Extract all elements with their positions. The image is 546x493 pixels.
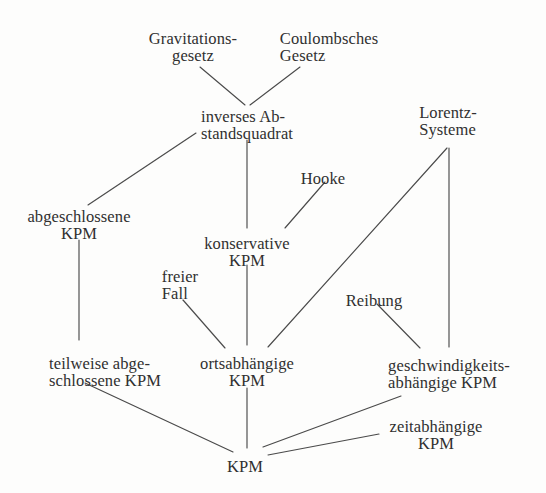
node-reibung: Reibung bbox=[346, 292, 403, 309]
node-label-line: Gravitations- bbox=[149, 30, 237, 47]
edge-inverses-abgeschlossene bbox=[88, 133, 196, 205]
concept-hierarchy-diagram: Gravitations-gesetzCoulombschesGesetzinv… bbox=[0, 0, 546, 493]
node-label-line: KPM bbox=[227, 458, 263, 475]
edge-zeitabhaengige-kpm bbox=[268, 434, 379, 455]
node-hooke: Hooke bbox=[301, 170, 346, 187]
node-label-line: konservative bbox=[204, 235, 290, 252]
node-label-line: Systeme bbox=[419, 121, 477, 138]
edge-hooke-konservative bbox=[285, 182, 325, 228]
node-abgeschlossene-kpm: abgeschlosseneKPM bbox=[27, 208, 130, 243]
edge-geschwindigkeitsabhaengige-kpm bbox=[263, 396, 401, 447]
edge-coulomb-inverses bbox=[250, 67, 300, 105]
node-label-line: teilweise abge- bbox=[49, 355, 161, 372]
edge-freierfall-ortsabhaengige bbox=[183, 300, 225, 348]
node-label-line: KPM bbox=[27, 225, 130, 242]
edge-reibung-geschwindigkeitsabhaengige bbox=[377, 304, 420, 348]
node-label-line: gesetz bbox=[149, 47, 237, 64]
node-label-line: zeitabhängige bbox=[390, 418, 483, 435]
node-teilweise-abgeschlossene-kpm: teilweise abge-schlossene KPM bbox=[49, 355, 161, 390]
node-geschwindigkeitsabhaengige-kpm: geschwindigkeits-abhängige KPM bbox=[388, 357, 510, 392]
node-label-line: Gesetz bbox=[280, 47, 378, 64]
node-label-line: geschwindigkeits- bbox=[388, 357, 510, 374]
node-label-line: ortsabhängige bbox=[200, 355, 294, 372]
node-label-line: abhängige KPM bbox=[388, 374, 510, 391]
node-label-line: Coulombsches bbox=[280, 30, 378, 47]
node-label-line: Hooke bbox=[301, 170, 346, 187]
node-kpm: KPM bbox=[227, 458, 263, 475]
node-label-line: freier bbox=[162, 268, 198, 285]
node-label-line: abgeschlossene bbox=[27, 208, 130, 225]
node-gravitationsgesetz: Gravitations-gesetz bbox=[149, 30, 237, 65]
node-label-line: KPM bbox=[200, 372, 294, 389]
node-label-line: inverses Ab- bbox=[201, 108, 293, 125]
node-ortsabhaengige-kpm: ortsabhängigeKPM bbox=[200, 355, 294, 390]
node-konservative-kpm: konservativeKPM bbox=[204, 235, 290, 270]
edge-gravitationsgesetz-inverses bbox=[200, 67, 245, 105]
node-label-line: KPM bbox=[390, 435, 483, 452]
edge-lorentz-ortsabhaengige bbox=[268, 148, 447, 347]
node-label-line: schlossene KPM bbox=[49, 372, 161, 389]
node-zeitabhaengige-kpm: zeitabhängigeKPM bbox=[390, 418, 483, 453]
node-label-line: KPM bbox=[204, 252, 290, 269]
node-coulombsches-gesetz: CoulombschesGesetz bbox=[280, 30, 378, 65]
node-label-line: Lorentz- bbox=[419, 104, 477, 121]
node-inverses-abstandsquadrat: inverses Ab-standsquadrat bbox=[201, 108, 293, 143]
node-lorentz-systeme: Lorentz-Systeme bbox=[419, 104, 477, 139]
node-freier-fall: freierFall bbox=[162, 268, 198, 303]
edge-teilweise-kpm bbox=[85, 383, 233, 452]
node-label-line: standsquadrat bbox=[201, 125, 293, 142]
node-label-line: Reibung bbox=[346, 292, 403, 309]
node-label-line: Fall bbox=[162, 285, 198, 302]
